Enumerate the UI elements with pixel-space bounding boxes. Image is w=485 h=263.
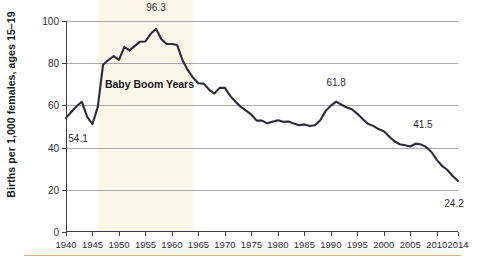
data-point-label: 96.3: [146, 1, 165, 12]
x-tick-label: 2014: [447, 239, 468, 250]
x-tick-label: 1980: [267, 239, 288, 250]
x-tick-label: 1940: [55, 239, 76, 250]
data-point-label: 54.1: [68, 132, 87, 143]
x-tick-mark: [198, 232, 199, 236]
y-tick-label: 100: [42, 16, 59, 27]
bottom-rule: [24, 255, 461, 256]
y-tick-label: 80: [48, 58, 59, 69]
x-tick-mark: [225, 232, 226, 236]
x-tick-mark: [172, 232, 173, 236]
baby-boom-years-label: Baby Boom Years: [105, 78, 194, 90]
x-tick-mark: [92, 232, 93, 236]
x-tick-mark: [278, 232, 279, 236]
x-tick-label: 1950: [108, 239, 129, 250]
data-point-label: 41.5: [413, 119, 432, 130]
x-tick-mark: [304, 232, 305, 236]
x-tick-label: 1970: [214, 239, 235, 250]
x-tick-label: 2010: [426, 239, 447, 250]
y-tick-label: 40: [48, 142, 59, 153]
x-tick-mark: [66, 232, 67, 236]
x-tick-mark: [145, 232, 146, 236]
x-tick-label: 2000: [373, 239, 394, 250]
line-series: [66, 21, 458, 232]
x-tick-mark: [119, 232, 120, 236]
plot-area: 020406080100 194019451950195519601965197…: [66, 21, 458, 232]
x-tick-label: 1985: [294, 239, 315, 250]
y-axis-title: Births per 1,000 females, ages 15–19: [0, 0, 22, 236]
y-axis-line: [66, 21, 67, 232]
x-tick-label: 1975: [241, 239, 262, 250]
x-tick-label: 1945: [82, 239, 103, 250]
y-tick-label: 20: [48, 184, 59, 195]
data-point-label: 61.8: [326, 76, 345, 87]
x-tick-label: 1990: [320, 239, 341, 250]
x-tick-mark: [458, 232, 459, 236]
x-axis-line: [66, 231, 458, 232]
x-tick-label: 1965: [188, 239, 209, 250]
x-tick-mark: [384, 232, 385, 236]
x-tick-label: 1995: [347, 239, 368, 250]
x-tick-mark: [251, 232, 252, 236]
x-tick-mark: [331, 232, 332, 236]
series-path: [66, 29, 458, 181]
y-tick-label: 60: [48, 100, 59, 111]
x-tick-mark: [410, 232, 411, 236]
x-tick-mark: [357, 232, 358, 236]
y-tick-label: 0: [53, 227, 59, 238]
x-tick-mark: [437, 232, 438, 236]
data-point-label: 24.2: [444, 197, 463, 208]
x-tick-label: 1955: [135, 239, 156, 250]
x-tick-label: 1960: [161, 239, 182, 250]
x-tick-label: 2005: [400, 239, 421, 250]
chart-figure: Births per 1,000 females, ages 15–19 020…: [0, 0, 485, 263]
